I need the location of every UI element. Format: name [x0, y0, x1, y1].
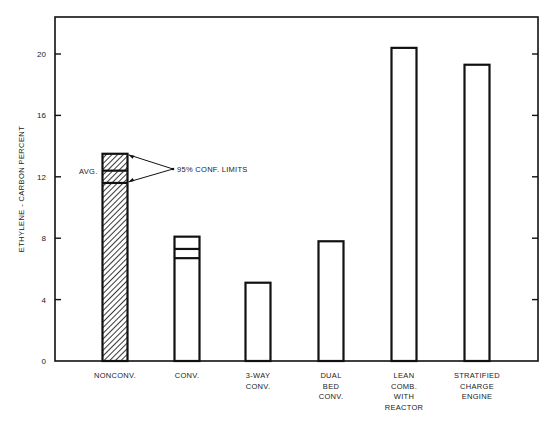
conf-limits-annotation: 95% CONF. LIMITS [177, 165, 248, 174]
x-category-label: STRATIFIED [454, 371, 500, 380]
bars [103, 48, 490, 361]
x-category-label: CONV. [246, 382, 271, 391]
x-category-label: CHARGE [460, 382, 494, 391]
y-axis-label: ETHYLENE - CARBON PERCENT [17, 126, 26, 252]
y-tick-label: 12 [37, 173, 46, 182]
x-category-label: NONCONV. [94, 371, 136, 380]
bar-4 [392, 48, 417, 361]
bar-chart: 048121620 NONCONV.CONV.3-WAYCONV.DUALBED… [0, 0, 555, 428]
x-category-label: ENGINE [462, 392, 493, 401]
y-tick-label: 4 [42, 296, 47, 305]
upper-limit-arrow [129, 155, 174, 169]
bar-1 [175, 237, 200, 361]
y-tick-label: 16 [37, 111, 46, 120]
x-category-label: REACTOR [385, 403, 424, 412]
bar-3 [319, 241, 344, 361]
x-axis-labels: NONCONV.CONV.3-WAYCONV.DUALBEDCONV.LEANC… [94, 371, 500, 412]
y-tick-label: 20 [37, 50, 46, 59]
bar-2 [246, 283, 271, 361]
y-tick-label: 8 [42, 234, 47, 243]
avg-annotation: AVG. [79, 167, 98, 176]
x-category-label: LEAN [394, 371, 415, 380]
x-category-label: 3-WAY [246, 371, 270, 380]
bar-0 [103, 154, 128, 361]
x-category-label: CONV. [175, 371, 200, 380]
x-category-label: DUAL [320, 371, 341, 380]
x-category-label: BED [323, 382, 340, 391]
arrowhead-icon [129, 178, 135, 182]
x-category-label: CONV. [319, 392, 344, 401]
bar-5 [465, 65, 490, 361]
y-tick-label: 0 [42, 357, 47, 366]
arrowhead-icon [129, 155, 135, 159]
lower-limit-arrow [129, 169, 174, 182]
x-category-label: COMB. [391, 382, 417, 391]
arrow-origin-dot [172, 168, 175, 171]
x-category-label: WITH [394, 392, 414, 401]
